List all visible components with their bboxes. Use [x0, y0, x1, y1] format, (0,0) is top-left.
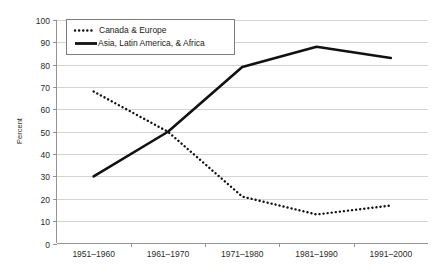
y-axis-tick-label: 10 — [41, 217, 51, 227]
x-axis-tick-label: 1961–1970 — [147, 249, 190, 259]
y-axis-title: Percent — [15, 117, 24, 144]
y-axis-tick-label: 80 — [41, 61, 51, 71]
y-axis-tick-label: 60 — [41, 105, 51, 115]
y-axis-tick-label: 30 — [41, 172, 51, 182]
chart-canvas: 0102030405060708090100 1951–19601961–197… — [0, 0, 441, 276]
x-axis-tick-label: 1951–1960 — [72, 249, 115, 259]
legend-label-asia-latin-america-africa: Asia, Latin America, & Africa — [98, 38, 205, 48]
y-axis-tick-label: 50 — [41, 128, 51, 138]
y-axis-tick-label: 0 — [45, 240, 50, 250]
chart-legend: Canada & Europe Asia, Latin America, & A… — [67, 20, 235, 55]
y-axis-tick-label: 20 — [41, 195, 51, 205]
legend-label-canada-europe: Canada & Europe — [99, 25, 167, 35]
line-chart: 0102030405060708090100 1951–19601961–197… — [0, 0, 441, 276]
x-axis-tick-label: 1991–2000 — [370, 249, 413, 259]
y-axis-tick-label: 70 — [41, 83, 51, 93]
x-axis-tick-label: 1981–1990 — [295, 249, 338, 259]
y-axis-tick-label: 100 — [36, 16, 50, 26]
y-axis-tick-label: 40 — [41, 150, 51, 160]
y-axis-tick-label: 90 — [41, 38, 51, 48]
x-axis-tick-label: 1971–1980 — [221, 249, 264, 259]
